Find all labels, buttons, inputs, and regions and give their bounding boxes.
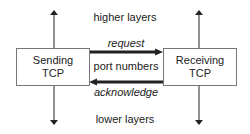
request-arrow (89, 49, 163, 56)
sending-tcp-box: Sending TCP (16, 48, 90, 86)
receiving-tcp-line2: TCP (176, 67, 224, 80)
arrow-up-icon (50, 10, 58, 15)
receiving-tcp-line1: Receiving (176, 54, 224, 67)
arrow-down-icon (50, 120, 58, 125)
receiving-tcp-box: Receiving TCP (163, 48, 237, 86)
sending-tcp-line2: TCP (33, 67, 73, 80)
arrow-down-icon (195, 120, 203, 125)
arrow-left-icon (89, 79, 97, 86)
request-label: request (89, 37, 163, 49)
arrow-right-icon (155, 49, 163, 56)
lower-layers-label: lower layers (75, 113, 175, 125)
acknowledge-label: acknowledge (86, 86, 166, 98)
higher-layers-label: higher layers (75, 11, 175, 23)
sending-tcp-line1: Sending (33, 54, 73, 67)
arrow-up-icon (195, 10, 203, 15)
acknowledge-arrow (89, 79, 163, 86)
port-numbers-label: port numbers (89, 60, 163, 72)
